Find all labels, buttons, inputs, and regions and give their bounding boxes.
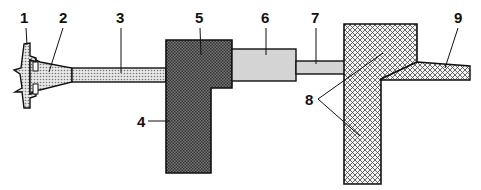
label-3: 3 <box>116 10 124 25</box>
label-9: 9 <box>454 10 462 25</box>
label-7: 7 <box>311 10 319 25</box>
diagram-canvas: 1 2 3 4 5 6 7 8 9 <box>0 0 481 190</box>
diagram-svg <box>0 0 481 190</box>
label-4: 4 <box>137 114 145 129</box>
part-4-5-block <box>166 40 232 173</box>
part-3-tube <box>72 68 166 82</box>
label-5: 5 <box>195 10 203 25</box>
part-8-block <box>344 24 417 184</box>
part-6-section <box>232 49 296 81</box>
label-6: 6 <box>261 10 269 25</box>
label-2: 2 <box>59 10 67 25</box>
label-8: 8 <box>305 92 313 107</box>
label-1: 1 <box>20 10 28 25</box>
part-7-tube <box>296 61 345 74</box>
